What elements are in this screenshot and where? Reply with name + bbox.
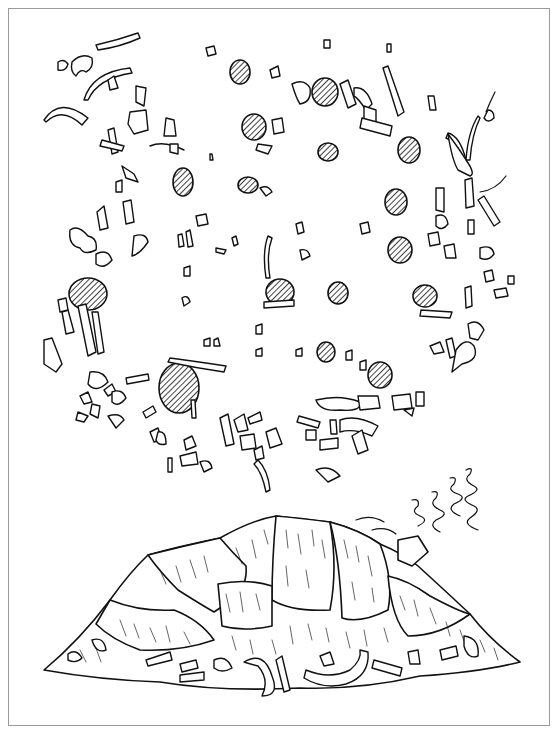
smoke [356, 469, 478, 534]
hearth-features [69, 60, 437, 413]
bone-fragments [44, 40, 514, 482]
dwelling [44, 516, 520, 696]
illustration [0, 0, 559, 734]
